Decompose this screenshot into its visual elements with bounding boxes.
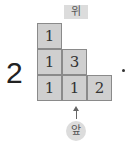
grid-cell-r1-c1: 1 xyxy=(37,23,62,49)
grid-cell-r2-c2: 3 xyxy=(62,49,87,75)
grid-cell-r3-c2: 1 xyxy=(62,75,87,101)
grid-cell-r3-c1: 1 xyxy=(37,75,62,101)
front-direction-label: 앞 xyxy=(66,121,86,141)
top-direction-label: 위 xyxy=(64,5,88,19)
grid-cell-r3-c3: 2 xyxy=(87,75,112,101)
arrow-shaft xyxy=(76,109,77,119)
grid-cell-r2-c1: 1 xyxy=(37,49,62,75)
period-dot xyxy=(122,69,125,72)
problem-number: 2 xyxy=(6,56,23,90)
